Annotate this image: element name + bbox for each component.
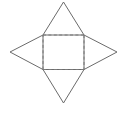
- square-pyramid-net-diagram: [0, 0, 126, 121]
- triangle-right: [84, 35, 117, 70]
- figure-canvas: [0, 0, 126, 121]
- center-square-group: [43, 35, 84, 70]
- triangle-flaps-group: [10, 2, 117, 103]
- triangle-bottom: [43, 70, 84, 104]
- triangle-left: [10, 35, 43, 70]
- triangle-top: [43, 2, 84, 35]
